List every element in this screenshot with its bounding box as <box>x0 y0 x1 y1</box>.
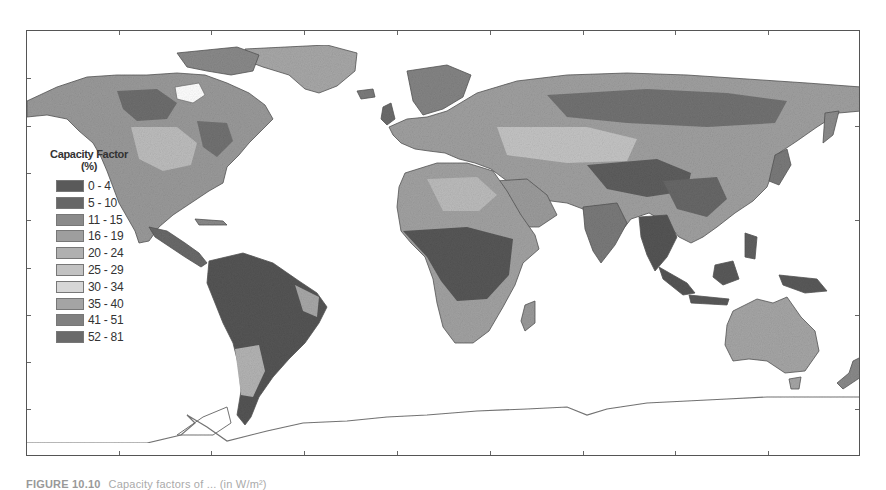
legend-label: 25 - 29 <box>88 263 123 277</box>
legend-label: 30 - 34 <box>88 280 123 294</box>
caption-text: Capacity factors of ... (in W/m²) <box>109 478 267 490</box>
java <box>689 295 729 305</box>
legend-item: 11 - 15 <box>56 212 144 228</box>
arctic-islands <box>177 47 259 75</box>
legend-item: 16 - 19 <box>56 228 144 244</box>
map-frame <box>26 30 860 456</box>
figure-caption: FIGURE 10.10Capacity factors of ... (in … <box>26 478 267 490</box>
legend-swatch <box>56 331 84 343</box>
legend-swatch <box>56 298 84 310</box>
uk <box>381 103 395 125</box>
australia <box>725 297 819 373</box>
antarctica <box>27 397 860 443</box>
legend-swatch <box>56 264 84 276</box>
legend-label: 52 - 81 <box>88 330 123 344</box>
new-zealand <box>837 357 860 389</box>
legend-swatch <box>56 180 84 192</box>
legend-label: 0 - 4 <box>88 179 111 193</box>
new-guinea <box>779 275 827 293</box>
legend-item: 35 - 40 <box>56 296 144 312</box>
legend-item: 30 - 34 <box>56 279 144 295</box>
legend-swatch <box>56 197 84 209</box>
legend-label: 35 - 40 <box>88 297 123 311</box>
legend-item: 20 - 24 <box>56 245 144 261</box>
legend-items: 0 - 4 5 - 10 11 - 15 16 - 19 20 - 24 25 … <box>56 178 144 345</box>
philippines <box>745 233 757 259</box>
legend-item: 25 - 29 <box>56 262 144 278</box>
legend-label: 5 - 10 <box>88 196 117 210</box>
legend-title: Capacity Factor <box>34 148 144 160</box>
legend-swatch <box>56 281 84 293</box>
legend-label: 41 - 51 <box>88 313 123 327</box>
legend-item: 52 - 81 <box>56 329 144 345</box>
borneo <box>713 261 739 285</box>
india <box>583 203 627 263</box>
map-legend: Capacity Factor (%) 0 - 4 5 - 10 11 - 15… <box>34 148 144 346</box>
cuba <box>195 219 227 225</box>
figure-label: FIGURE 10.10 <box>26 478 101 490</box>
world-map <box>27 31 860 456</box>
legend-label: 20 - 24 <box>88 246 123 260</box>
legend-swatch <box>56 230 84 242</box>
kamchatka <box>823 111 839 143</box>
greenland <box>245 45 357 93</box>
legend-item: 5 - 10 <box>56 195 144 211</box>
legend-swatch <box>56 247 84 259</box>
madagascar <box>521 301 535 331</box>
legend-swatch <box>56 214 84 226</box>
south-america <box>207 253 327 425</box>
legend-item: 0 - 4 <box>56 178 144 194</box>
legend-swatch <box>56 314 84 326</box>
tasmania <box>789 377 801 389</box>
legend-item: 41 - 51 <box>56 312 144 328</box>
legend-subtitle: (%) <box>34 160 144 172</box>
legend-label: 11 - 15 <box>88 213 122 227</box>
sumatra <box>659 267 695 295</box>
iceland <box>357 89 375 99</box>
central-america <box>149 227 207 267</box>
legend-label: 16 - 19 <box>88 229 123 243</box>
